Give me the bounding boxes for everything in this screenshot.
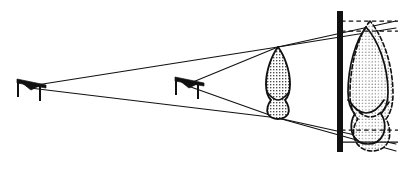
film-plane-bar [337, 11, 343, 152]
diagram-canvas [0, 0, 399, 170]
projection-diagram-figure [0, 0, 399, 170]
